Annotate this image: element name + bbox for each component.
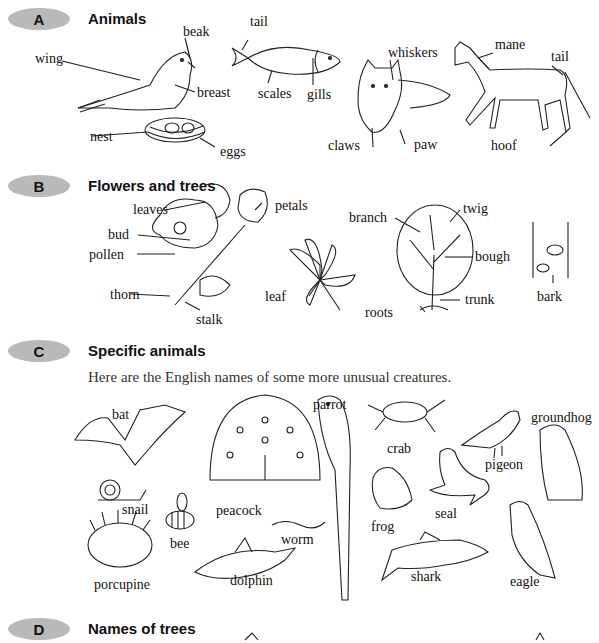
- snail-illustration: [98, 480, 146, 500]
- label-bee: bee: [170, 537, 189, 551]
- label-whiskers: whiskers: [388, 46, 438, 60]
- porcupine-illustration: [88, 510, 152, 567]
- label-roots: roots: [365, 306, 393, 320]
- label-bud: bud: [108, 228, 129, 242]
- label-bough: bough: [475, 250, 510, 264]
- section-heading-names-of-trees: Names of trees: [88, 620, 196, 637]
- leaf-illustration: [290, 239, 355, 310]
- label-claws: claws: [328, 139, 360, 153]
- section-badge-b: B: [8, 175, 70, 197]
- label-pollen: pollen: [89, 248, 124, 262]
- label-mane: mane: [495, 38, 525, 52]
- label-wing: wing: [35, 52, 63, 66]
- label-horse-tail: tail: [551, 50, 569, 64]
- bark-illustration: [533, 222, 568, 278]
- frog-illustration: [372, 467, 412, 509]
- section-heading-specific-animals: Specific animals: [88, 342, 206, 359]
- tree-top-partial: [245, 633, 258, 640]
- label-fish-tail: tail: [250, 15, 268, 29]
- label-worm: worm: [281, 533, 314, 547]
- label-twig: twig: [463, 202, 488, 216]
- section-badge-d: D: [8, 618, 70, 640]
- bat-illustration: [75, 405, 185, 465]
- label-porcupine: porcupine: [94, 578, 150, 592]
- label-petals: petals: [275, 199, 308, 213]
- label-trunk: trunk: [465, 293, 495, 307]
- nest-illustration: [145, 118, 205, 142]
- label-bat: bat: [112, 408, 129, 422]
- pigeon-illustration: [462, 411, 520, 458]
- label-leaves: leaves: [133, 203, 168, 217]
- label-eggs: eggs: [220, 145, 246, 159]
- groundhog-illustration: [540, 425, 582, 500]
- horse-illustration: [455, 42, 590, 132]
- label-thorn: thorn: [110, 288, 140, 302]
- seal-illustration: [430, 449, 489, 506]
- label-crab: crab: [387, 442, 411, 456]
- label-nest: nest: [90, 130, 113, 144]
- label-breast: breast: [197, 86, 230, 100]
- tree-illustration: [397, 205, 473, 310]
- fish-illustration: [232, 47, 340, 74]
- label-branch: branch: [349, 211, 387, 225]
- label-snail: snail: [122, 503, 148, 517]
- label-peacock: peacock: [216, 504, 262, 518]
- label-seal: seal: [435, 507, 457, 521]
- label-pigeon: pigeon: [485, 458, 523, 472]
- label-groundhog: groundhog: [531, 411, 592, 425]
- label-dolphin: dolphin: [230, 574, 273, 588]
- label-frog: frog: [371, 520, 394, 534]
- bird-illustration: [78, 52, 195, 112]
- section-badge-a: A: [8, 8, 70, 30]
- section-heading-animals: Animals: [88, 10, 146, 27]
- tree-top-partial-right: [536, 633, 544, 640]
- label-gills: gills: [307, 88, 331, 102]
- label-stalk: stalk: [196, 313, 222, 327]
- cat-illustration: [358, 60, 450, 132]
- parrot-illustration: [318, 396, 350, 600]
- label-bark: bark: [537, 290, 562, 304]
- flower-illustration: [153, 184, 268, 305]
- label-eagle: eagle: [510, 575, 540, 589]
- label-scales: scales: [258, 87, 291, 101]
- bee-illustration: [166, 493, 194, 529]
- section-heading-flowers-trees: Flowers and trees: [88, 177, 216, 194]
- section-badge-c: C: [8, 340, 70, 362]
- label-beak: beak: [183, 25, 209, 39]
- crab-illustration: [368, 400, 445, 432]
- worm-illustration: [272, 522, 325, 528]
- label-shark: shark: [411, 570, 441, 584]
- label-leaf: leaf: [265, 290, 286, 304]
- label-parrot: parrot: [313, 398, 346, 412]
- label-hoof: hoof: [491, 139, 517, 153]
- eagle-illustration: [510, 502, 555, 579]
- peacock-illustration: [210, 395, 320, 480]
- label-paw: paw: [414, 138, 437, 152]
- section-intro-text: Here are the English names of some more …: [88, 369, 451, 386]
